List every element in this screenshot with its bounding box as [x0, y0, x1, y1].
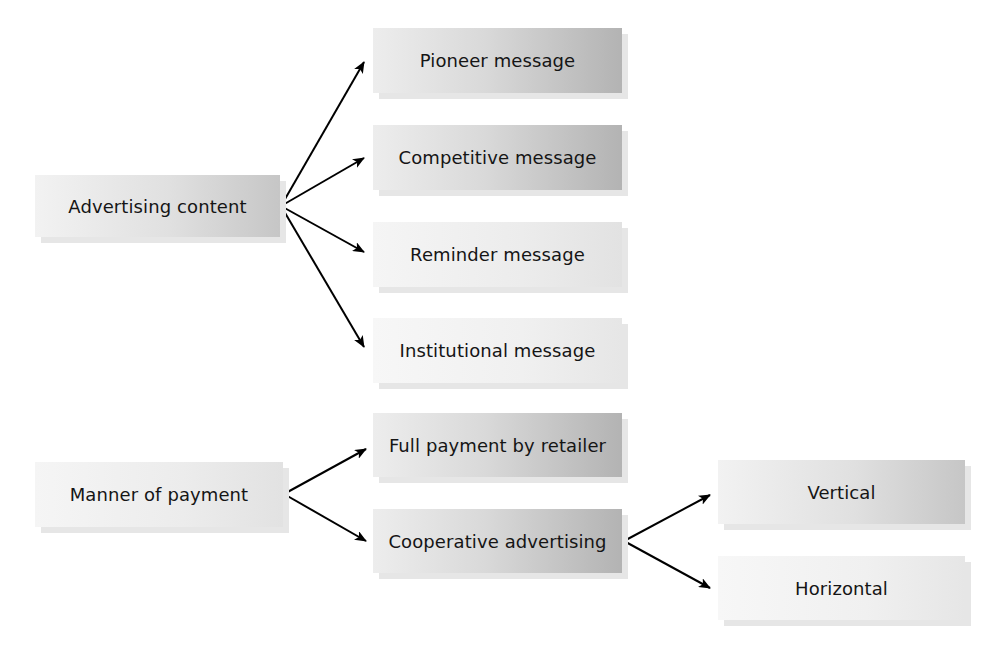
arrow-to-competitive: [281, 158, 364, 206]
node-label: Advertising content: [68, 196, 246, 217]
arrow-to-institutional: [281, 206, 364, 347]
node-label: Competitive message: [399, 147, 597, 168]
node-manner-of-payment: Manner of payment: [35, 462, 283, 527]
node-label: Cooperative advertising: [388, 531, 606, 552]
arrow-to-pioneer: [281, 62, 364, 206]
node-vertical: Vertical: [718, 460, 965, 524]
node-pioneer-message: Pioneer message: [373, 28, 622, 93]
node-label: Vertical: [807, 482, 875, 503]
node-label: Pioneer message: [420, 50, 576, 71]
node-cooperative-advertising: Cooperative advertising: [373, 509, 622, 573]
node-full-payment-by-retailer: Full payment by retailer: [373, 413, 622, 477]
node-horizontal: Horizontal: [718, 556, 965, 620]
node-label: Institutional message: [400, 340, 596, 361]
node-label: Full payment by retailer: [389, 435, 606, 456]
arrow-to-cooperative: [284, 494, 366, 541]
node-institutional-message: Institutional message: [373, 318, 622, 383]
node-reminder-message: Reminder message: [373, 222, 622, 287]
node-label: Reminder message: [410, 244, 585, 265]
node-advertising-content: Advertising content: [35, 175, 280, 237]
node-label: Manner of payment: [70, 484, 249, 505]
arrow-to-horizontal: [624, 541, 710, 588]
node-label: Horizontal: [795, 578, 888, 599]
node-competitive-message: Competitive message: [373, 125, 622, 190]
arrow-to-vertical: [624, 495, 710, 541]
arrow-to-full-payment: [284, 449, 366, 494]
